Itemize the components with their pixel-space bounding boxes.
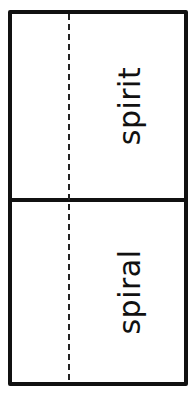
word-flip-card: spirit spiral <box>8 10 188 386</box>
card-panel-top[interactable]: spirit <box>12 14 184 198</box>
word-label-top: spirit <box>115 67 145 145</box>
word-label-bottom: spiral <box>115 249 145 334</box>
card-panel-bottom[interactable]: spiral <box>12 202 184 382</box>
dashed-fold-line <box>68 14 70 382</box>
